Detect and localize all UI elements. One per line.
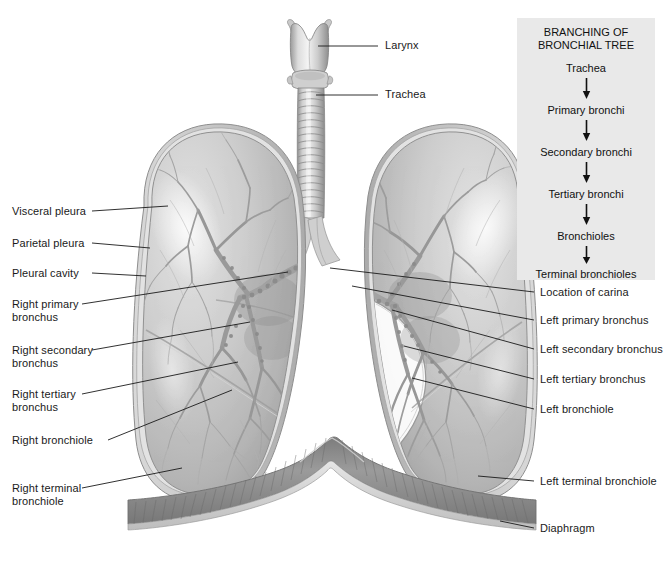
- label-left-bronchiole: Left bronchiole: [540, 403, 614, 416]
- flowchart-step-trachea: Trachea: [517, 62, 655, 74]
- label-right-secondary-bronchus: Right secondary bronchus: [12, 344, 93, 370]
- flowchart-arrow-down-icon-1: [517, 78, 655, 100]
- flowchart-arrow-down-icon-2: [517, 120, 655, 142]
- label-left-primary-bronchus: Left primary bronchus: [540, 314, 648, 327]
- flowchart-step-primary-bronchi: Primary bronchi: [517, 104, 655, 116]
- flowchart-arrow-down-icon-3: [517, 162, 655, 184]
- flowchart-arrow-down-icon-5: [517, 246, 655, 265]
- flowchart-step-tertiary-bronchi: Tertiary bronchi: [517, 188, 655, 200]
- left-lung-graphic: [322, 124, 537, 503]
- label-right-bronchiole: Right bronchiole: [12, 434, 93, 447]
- label-right-tertiary-bronchus: Right tertiary bronchus: [12, 388, 76, 414]
- label-visceral-pleura: Visceral pleura: [12, 205, 86, 218]
- label-left-tertiary-bronchus: Left tertiary bronchus: [540, 373, 646, 386]
- flowchart-step-terminal-bronchioles: Terminal bronchioles: [517, 268, 655, 280]
- label-right-terminal-bronchiole: Right terminal bronchiole: [12, 482, 81, 508]
- label-pleural-cavity: Pleural cavity: [12, 267, 79, 280]
- label-larynx: Larynx: [385, 39, 419, 52]
- label-location-of-carina: Location of carina: [540, 286, 629, 299]
- figure-canvas: BRANCHING OF BRONCHIAL TREE Trachea Prim…: [0, 0, 670, 562]
- label-trachea: Trachea: [385, 88, 426, 101]
- label-left-secondary-bronchus: Left secondary bronchus: [540, 343, 663, 356]
- label-parietal-pleura: Parietal pleura: [12, 237, 84, 250]
- flowchart-title: BRANCHING OF BRONCHIAL TREE: [517, 26, 655, 52]
- flowchart-step-secondary-bronchi: Secondary bronchi: [517, 146, 655, 158]
- right-lung-graphic: [133, 124, 306, 503]
- label-right-primary-bronchus: Right primary bronchus: [12, 298, 79, 324]
- label-left-terminal-bronchiole: Left terminal bronchiole: [540, 475, 657, 488]
- flowchart-arrow-down-icon-4: [517, 204, 655, 226]
- flowchart-step-bronchioles: Bronchioles: [517, 230, 655, 242]
- label-diaphragm: Diaphragm: [540, 522, 595, 535]
- branching-flowchart: BRANCHING OF BRONCHIAL TREE Trachea Prim…: [517, 18, 655, 280]
- larynx-graphic: [287, 20, 332, 90]
